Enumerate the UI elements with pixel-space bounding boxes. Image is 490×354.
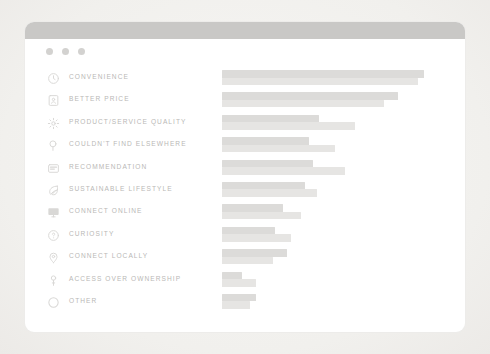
maximize-dot[interactable] xyxy=(78,48,85,55)
bar-secondary xyxy=(222,122,355,130)
chart-row-label: SUSTAINABLE LIFESTYLE xyxy=(69,185,173,192)
chart-row-bars xyxy=(222,70,424,85)
bar-secondary xyxy=(222,167,345,175)
browser-title-bar xyxy=(25,22,465,39)
chat-card-icon xyxy=(47,162,60,175)
monitor-icon xyxy=(47,206,60,219)
chart-row-bars xyxy=(222,182,317,197)
minimize-dot[interactable] xyxy=(62,48,69,55)
chart-row-label: OTHER xyxy=(69,297,97,304)
search-icon xyxy=(47,139,60,152)
bar-secondary xyxy=(222,212,301,220)
close-dot[interactable] xyxy=(46,48,53,55)
bar-primary xyxy=(222,227,275,235)
chart-row: COULDN'T FIND ELSEWHERE xyxy=(25,137,465,159)
chart-row: CONVENIENCE xyxy=(25,70,465,92)
bar-secondary xyxy=(222,100,384,108)
bar-primary xyxy=(222,70,424,78)
bar-secondary xyxy=(222,279,256,287)
bar-secondary xyxy=(222,257,273,265)
bar-primary xyxy=(222,204,283,212)
chart-row: CONNECT ONLINE xyxy=(25,204,465,226)
chart-row-bars xyxy=(222,272,256,287)
chart-row-bars xyxy=(222,227,291,242)
chart-row-label: RECOMMENDATION xyxy=(69,163,147,170)
bar-secondary xyxy=(222,189,317,197)
browser-window: CONVENIENCEBETTER PRICEPRODUCT/SERVICE Q… xyxy=(25,22,465,332)
chart-row: PRODUCT/SERVICE QUALITY xyxy=(25,115,465,137)
bookmark-icon xyxy=(47,94,60,107)
chart-row-bars xyxy=(222,294,256,309)
chart-row-label: CONVENIENCE xyxy=(69,73,129,80)
bar-secondary xyxy=(222,78,418,86)
chart-row-label: PRODUCT/SERVICE QUALITY xyxy=(69,118,186,125)
key-icon xyxy=(47,274,60,287)
chart-row: CURIOSITY xyxy=(25,227,465,249)
bar-primary xyxy=(222,160,313,168)
chart-row-label: COULDN'T FIND ELSEWHERE xyxy=(69,140,187,147)
chart-row-label: CONNECT LOCALLY xyxy=(69,252,148,259)
chart-row-label: CONNECT ONLINE xyxy=(69,207,143,214)
bar-primary xyxy=(222,272,242,280)
chart-row-label: BETTER PRICE xyxy=(69,95,130,102)
horizontal-bar-chart: CONVENIENCEBETTER PRICEPRODUCT/SERVICE Q… xyxy=(25,70,465,316)
chart-row-bars xyxy=(222,137,335,152)
bar-secondary xyxy=(222,234,291,242)
chart-row-label: ACCESS OVER OWNERSHIP xyxy=(69,275,181,282)
chart-row: ACCESS OVER OWNERSHIP xyxy=(25,272,465,294)
bar-primary xyxy=(222,92,398,100)
leaf-icon xyxy=(47,184,60,197)
chart-row: CONNECT LOCALLY xyxy=(25,249,465,271)
chart-row-bars xyxy=(222,160,345,175)
gear-icon xyxy=(47,117,60,130)
chart-row-bars xyxy=(222,115,355,130)
bar-primary xyxy=(222,137,309,145)
circle-icon xyxy=(47,296,60,309)
page-frame: CONVENIENCEBETTER PRICEPRODUCT/SERVICE Q… xyxy=(0,0,490,354)
bar-primary xyxy=(222,249,287,257)
window-controls xyxy=(46,48,85,55)
chart-row-bars xyxy=(222,204,301,219)
chart-row: RECOMMENDATION xyxy=(25,160,465,182)
chart-row-bars xyxy=(222,249,287,264)
chart-row-bars xyxy=(222,92,398,107)
chart-row: OTHER xyxy=(25,294,465,316)
map-pin-icon xyxy=(47,251,60,264)
chart-row: SUSTAINABLE LIFESTYLE xyxy=(25,182,465,204)
bar-secondary xyxy=(222,145,335,153)
lightbulb-icon xyxy=(47,229,60,242)
bar-secondary xyxy=(222,301,250,309)
bar-primary xyxy=(222,182,305,190)
chart-row: BETTER PRICE xyxy=(25,92,465,114)
bar-primary xyxy=(222,115,319,123)
chart-row-label: CURIOSITY xyxy=(69,230,114,237)
bar-primary xyxy=(222,294,256,302)
clock-icon xyxy=(47,72,60,85)
